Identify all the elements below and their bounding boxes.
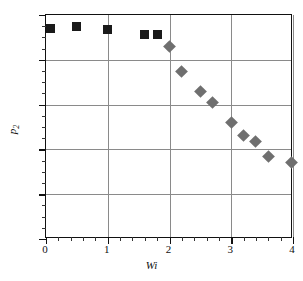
y-axis-minor-tick [42, 71, 46, 72]
chart-figure: p2 Wi 00.20.40.60.81.001234 [0, 0, 303, 281]
y-axis-minor-tick [42, 127, 46, 128]
data-point-square [140, 30, 149, 39]
x-axis-minor-tick [95, 237, 96, 241]
data-point-square [72, 22, 81, 31]
x-axis-minor-tick [194, 237, 195, 241]
y-axis-minor-tick [42, 37, 46, 38]
y-axis-minor-tick [42, 116, 46, 117]
data-point-square [46, 24, 55, 33]
gridline-horizontal [46, 60, 291, 61]
y-axis-tick [39, 105, 46, 106]
y-axis-tick [39, 194, 46, 195]
y-axis-minor-tick [42, 217, 46, 218]
x-axis-tick-label: 2 [154, 244, 184, 255]
plot-area [45, 14, 292, 238]
data-point-diamond [206, 96, 219, 109]
x-axis-minor-tick [71, 237, 72, 241]
y-axis-tick [39, 15, 46, 16]
x-axis-tick-label: 0 [30, 244, 60, 255]
data-point-diamond [237, 130, 250, 143]
data-point-diamond [250, 135, 263, 148]
x-axis-minor-tick [219, 237, 220, 241]
x-axis-tick-label: 4 [277, 244, 303, 255]
y-axis-tick [39, 239, 46, 240]
y-axis-tick [39, 60, 46, 61]
y-axis-minor-tick [42, 228, 46, 229]
data-point-diamond [225, 116, 238, 129]
x-axis-title: Wi [0, 259, 303, 271]
y-axis-minor-tick [42, 93, 46, 94]
y-axis-title-subscript: 2 [12, 125, 21, 129]
data-point-diamond [194, 85, 207, 98]
x-axis-minor-tick [132, 237, 133, 241]
y-axis-minor-tick [42, 205, 46, 206]
y-axis-minor-tick [42, 161, 46, 162]
x-axis-minor-tick [182, 237, 183, 241]
gridline-horizontal [46, 105, 291, 106]
y-axis-title-base: p [6, 129, 18, 135]
x-axis-minor-tick [145, 237, 146, 241]
data-point-diamond [163, 40, 176, 53]
data-point-diamond [285, 156, 298, 169]
x-axis-minor-tick [281, 237, 282, 241]
y-axis-minor-tick [42, 49, 46, 50]
x-axis-minor-tick [256, 237, 257, 241]
x-axis-minor-tick [268, 237, 269, 241]
y-axis-minor-tick [42, 26, 46, 27]
x-axis-minor-tick [244, 237, 245, 241]
y-axis-title: p2 [6, 125, 21, 135]
x-axis-tick-label: 1 [92, 244, 122, 255]
gridline-horizontal [46, 149, 291, 150]
data-point-diamond [262, 150, 275, 163]
y-axis-minor-tick [42, 82, 46, 83]
x-axis-minor-tick [58, 237, 59, 241]
data-point-diamond [175, 65, 188, 78]
gridline-vertical [108, 15, 109, 237]
gridline-vertical [293, 15, 294, 237]
data-point-square [153, 30, 162, 39]
x-axis-minor-tick [207, 237, 208, 241]
gridline-horizontal [46, 194, 291, 195]
x-axis-tick-label: 3 [215, 244, 245, 255]
x-axis-minor-tick [157, 237, 158, 241]
y-axis-minor-tick [42, 172, 46, 173]
x-axis-minor-tick [83, 237, 84, 241]
y-axis-tick [39, 149, 46, 150]
y-axis-minor-tick [42, 138, 46, 139]
data-point-square [103, 25, 112, 34]
y-axis-minor-tick [42, 183, 46, 184]
x-axis-minor-tick [120, 237, 121, 241]
